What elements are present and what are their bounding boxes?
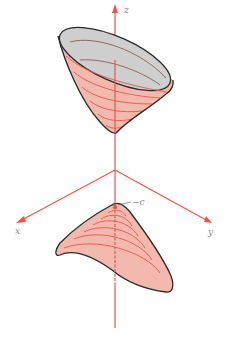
hyperboloid-diagram: z x y −c (0, 0, 230, 345)
vertex-point (113, 205, 117, 209)
y-axis-arrow-icon (204, 216, 212, 223)
lower-sheet (56, 203, 173, 292)
z-axis-arrow-icon (112, 4, 118, 13)
vertex-label: −c (132, 197, 145, 207)
z-axis-label: z (123, 5, 129, 15)
x-axis-arrow-icon (16, 216, 26, 223)
lower-sheet-surface (56, 203, 173, 292)
x-axis-label: x (15, 226, 20, 236)
y-axis-label: y (207, 227, 214, 237)
